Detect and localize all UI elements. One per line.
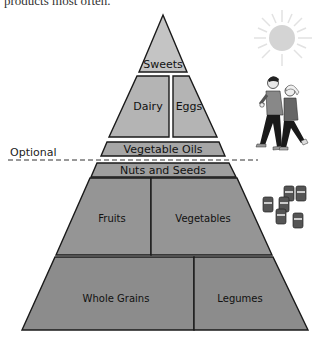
optional-label: Optional	[10, 146, 57, 159]
food-pyramid-diagram: Optional Sweets Dairy Eggs Vegetable Oil…	[0, 0, 325, 343]
vegetable-oils-label: Vegetable Oils	[123, 143, 202, 156]
vegetables-label: Vegetables	[175, 213, 230, 224]
sun-icon	[254, 10, 312, 66]
whole-grains-label: Whole Grains	[83, 293, 150, 304]
joggers-illustration	[256, 76, 308, 168]
fruits-label: Fruits	[98, 213, 125, 224]
eggs-label: Eggs	[176, 100, 203, 113]
legumes-label: Legumes	[217, 293, 262, 304]
dairy-label: Dairy	[133, 100, 163, 113]
nuts-seeds-label: Nuts and Seeds	[120, 164, 206, 177]
supplement-bottles-icon	[263, 186, 306, 228]
sweets-label: Sweets	[143, 58, 183, 71]
